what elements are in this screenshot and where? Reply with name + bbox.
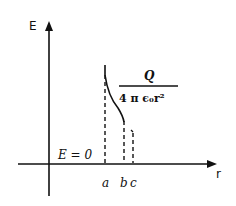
marker-c-label: c — [130, 176, 137, 190]
field-diagram: E r a b c E = 0 Q 4 π ϵ₀r² — [0, 0, 236, 206]
marker-a-label: a — [102, 176, 109, 190]
formula-numerator: Q — [144, 69, 155, 83]
x-axis-label: r — [216, 167, 221, 181]
y-axis-label: E — [29, 19, 37, 33]
marker-b-label: b — [120, 176, 128, 190]
y-axis-arrow-icon — [45, 21, 53, 31]
region-label: E = 0 — [57, 148, 92, 162]
formula-denominator: 4 π ϵ₀r² — [119, 92, 165, 105]
marker-c-tick — [131, 130, 133, 132]
